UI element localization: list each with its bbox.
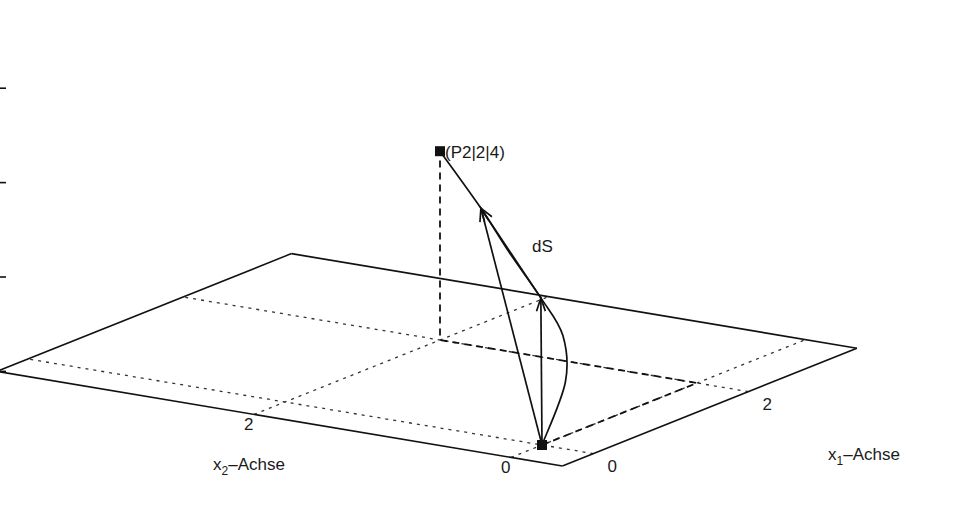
chart-3d-plot: 0202 02468 (P2|2|4) dS x2–Achse x1–Achse — [0, 0, 968, 527]
point-markers — [435, 146, 547, 450]
x2-axis-label: x2–Achse — [213, 455, 285, 478]
floor-edge-back — [0, 254, 292, 372]
floor-edge-right — [292, 254, 857, 349]
floor-edge-x2 — [0, 371, 562, 466]
x2-tick-label: 2 — [244, 415, 253, 434]
x2-tick-label: 0 — [501, 458, 510, 477]
point-marker-p2 — [435, 146, 445, 156]
grid-line-x1 — [28, 359, 593, 454]
point-marker-start — [537, 440, 547, 450]
x1-tick-label: 2 — [762, 395, 771, 414]
z-axis: 02468 — [0, 0, 6, 381]
x1-tick-label: 0 — [607, 457, 616, 476]
curve-and-vectors — [440, 151, 567, 445]
projection-dashed-line — [440, 151, 697, 445]
x1-axis-label: x1–Achse — [828, 445, 900, 468]
p2-label: (P2|2|4) — [445, 143, 505, 162]
floor-edge-x1 — [562, 348, 857, 466]
projection-lines — [440, 151, 697, 445]
vector-arrow — [541, 298, 542, 445]
ds-label: dS — [532, 237, 553, 256]
floor-frame — [0, 254, 857, 466]
grid-line-x2 — [254, 297, 549, 415]
